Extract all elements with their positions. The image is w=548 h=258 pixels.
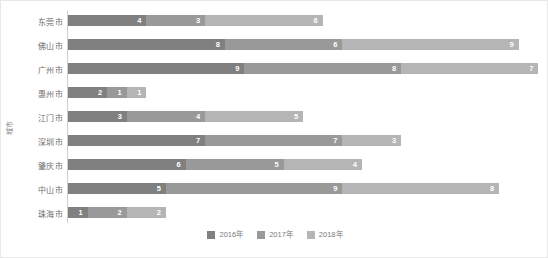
bar-segment: 7 [401, 63, 538, 74]
stacked-bar: 436 [68, 15, 323, 26]
y-axis-title: 城市 [1, 97, 17, 157]
bar-row: 江门市345 [19, 105, 543, 129]
bar-segment: 8 [244, 63, 401, 74]
legend-item[interactable]: 2018年 [307, 231, 343, 239]
bar-segment: 4 [284, 159, 362, 170]
category-label: 肇庆市 [19, 153, 63, 177]
bar-row: 肇庆市654 [19, 153, 543, 177]
bar-row: 广州市987 [19, 57, 543, 81]
stacked-bar: 211 [68, 87, 146, 98]
bar-value-label: 4 [196, 113, 205, 121]
stacked-bar: 773 [68, 135, 401, 146]
bar-segment: 8 [68, 39, 225, 50]
stacked-bar: 345 [68, 111, 303, 122]
legend-item[interactable]: 2017年 [257, 231, 293, 239]
stacked-bar: 869 [68, 39, 519, 50]
bar-segment: 6 [225, 39, 343, 50]
legend-swatch-icon [257, 231, 265, 239]
category-label: 中山市 [19, 177, 63, 201]
bar-segment: 7 [68, 135, 205, 146]
bar-value-label: 2 [118, 209, 127, 217]
bar-value-label: 7 [196, 137, 205, 145]
stacked-bar: 987 [68, 63, 538, 74]
stacked-bar-chart: 城市 东莞市436佛山市869广州市987惠州市211江门市345深圳市773肇… [0, 0, 548, 258]
bar-segment: 3 [342, 135, 401, 146]
bar-value-label: 1 [137, 89, 146, 97]
category-label: 深圳市 [19, 129, 63, 153]
bar-segment: 3 [146, 15, 205, 26]
legend-swatch-icon [307, 231, 315, 239]
bar-value-label: 6 [176, 161, 185, 169]
bar-value-label: 9 [510, 41, 519, 49]
category-label: 江门市 [19, 105, 63, 129]
bar-value-label: 9 [333, 185, 342, 193]
bar-segment: 5 [186, 159, 284, 170]
bar-value-label: 2 [98, 89, 107, 97]
bar-segment: 2 [68, 87, 107, 98]
bar-value-label: 3 [196, 17, 205, 25]
bar-value-label: 6 [333, 41, 342, 49]
stacked-bar: 654 [68, 159, 362, 170]
bar-value-label: 6 [314, 17, 323, 25]
bar-row: 惠州市211 [19, 81, 543, 105]
plot-area: 东莞市436佛山市869广州市987惠州市211江门市345深圳市773肇庆市6… [19, 9, 543, 225]
bar-value-label: 8 [216, 41, 225, 49]
bar-segment: 5 [68, 183, 166, 194]
bar-segment: 3 [68, 111, 127, 122]
bar-value-label: 1 [78, 209, 87, 217]
stacked-bar: 598 [68, 183, 499, 194]
bar-segment: 5 [205, 111, 303, 122]
legend-label: 2017年 [269, 231, 293, 239]
bar-segment: 8 [342, 183, 499, 194]
bar-segment: 9 [342, 39, 518, 50]
legend-swatch-icon [207, 231, 215, 239]
bar-value-label: 5 [294, 113, 303, 121]
bar-segment: 1 [68, 207, 88, 218]
y-axis-title-text: 城市 [6, 120, 13, 134]
bar-segment: 9 [166, 183, 342, 194]
bar-row: 珠海市122 [19, 201, 543, 225]
category-label: 佛山市 [19, 33, 63, 57]
bar-segment: 7 [205, 135, 342, 146]
bar-value-label: 8 [490, 185, 499, 193]
bar-value-label: 5 [157, 185, 166, 193]
bar-row: 东莞市436 [19, 9, 543, 33]
bar-segment: 1 [107, 87, 127, 98]
category-label: 惠州市 [19, 81, 63, 105]
bar-row: 中山市598 [19, 177, 543, 201]
category-label: 广州市 [19, 57, 63, 81]
bar-value-label: 3 [392, 137, 401, 145]
bar-segment: 9 [68, 63, 244, 74]
bar-segment: 2 [127, 207, 166, 218]
bar-value-label: 8 [392, 65, 401, 73]
bar-segment: 1 [127, 87, 147, 98]
legend-item[interactable]: 2016年 [207, 231, 243, 239]
bar-value-label: 7 [333, 137, 342, 145]
bar-row: 佛山市869 [19, 33, 543, 57]
stacked-bar: 122 [68, 207, 166, 218]
bar-row: 深圳市773 [19, 129, 543, 153]
legend-label: 2016年 [219, 231, 243, 239]
bar-value-label: 4 [137, 17, 146, 25]
bar-value-label: 2 [157, 209, 166, 217]
chart-legend: 2016年2017年2018年 [1, 231, 548, 239]
bar-value-label: 7 [529, 65, 538, 73]
bar-segment: 4 [68, 15, 146, 26]
bar-segment: 6 [68, 159, 186, 170]
bar-segment: 6 [205, 15, 323, 26]
legend-label: 2018年 [319, 231, 343, 239]
bar-segment: 4 [127, 111, 205, 122]
category-label: 东莞市 [19, 9, 63, 33]
category-label: 珠海市 [19, 201, 63, 225]
bar-value-label: 9 [235, 65, 244, 73]
bar-value-label: 1 [118, 89, 127, 97]
bar-segment: 2 [88, 207, 127, 218]
bar-value-label: 5 [274, 161, 283, 169]
bar-value-label: 4 [353, 161, 362, 169]
bar-value-label: 3 [118, 113, 127, 121]
